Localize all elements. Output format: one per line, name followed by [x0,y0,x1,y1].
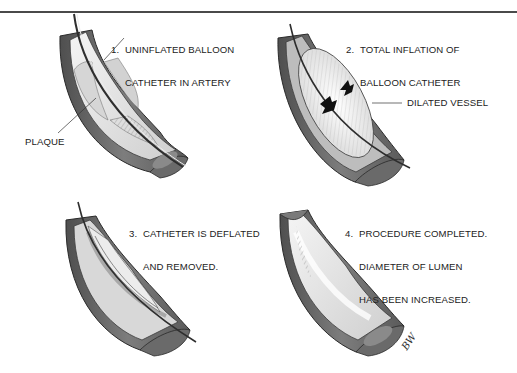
panel-2-caption-line-1: TOTAL INFLATION OF [360,44,460,55]
panel-3-caption: 3.CATHETER IS DEFLATED AND REMOVED. [129,206,260,283]
panel-3-number: 3. [129,228,143,239]
panel-2-number: 2. [346,44,360,55]
panel-1-number: 1. [111,44,125,55]
panel-1-caption-line-2: CATHETER IN ARTERY [111,77,234,88]
panel-1-caption: 1.UNINFLATED BALLOON CATHETER IN ARTERY [111,22,234,99]
panel-4-caption-line-2: DIAMETER OF LUMEN [345,261,487,272]
panel-2-caption-line-2: BALLOON CATHETER [346,77,461,88]
plaque-label: PLAQUE [25,136,65,147]
panel-3-caption-line-2: AND REMOVED. [129,261,260,272]
panel-2-caption: 2.TOTAL INFLATION OF BALLOON CATHETER [346,22,461,99]
panel-1-caption-line-1: UNINFLATED BALLOON [125,44,234,55]
panel-4-caption-line-1: PROCEDURE COMPLETED. [359,228,487,239]
panel-4-caption-line-3: HAS BEEN INCREASED. [345,294,487,305]
panel-4-number: 4. [345,228,359,239]
panel-4-caption: 4.PROCEDURE COMPLETED. DIAMETER OF LUMEN… [345,206,487,316]
dilated-vessel-label: DILATED VESSEL [407,97,488,108]
panel-3-caption-line-1: CATHETER IS DEFLATED [143,228,260,239]
